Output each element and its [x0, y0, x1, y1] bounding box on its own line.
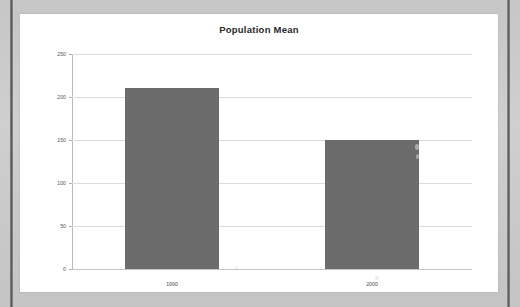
- bars-group: 19902000: [72, 54, 472, 269]
- scan-speck: [375, 276, 379, 280]
- y-axis-tick-mark: [69, 269, 72, 270]
- y-axis-tick-label: 100: [57, 180, 66, 186]
- scan-speck: [415, 144, 419, 150]
- bar-2000: 2000: [325, 140, 419, 269]
- scan-speck: [235, 266, 238, 269]
- y-axis-tick-label: 0: [63, 266, 66, 272]
- x-axis-tick-label: 2000: [366, 281, 378, 287]
- y-axis-tick-label: 250: [57, 51, 66, 57]
- screenshot-root: Population Mean 050100150200250 19902000: [0, 0, 520, 307]
- y-axis-tick-label: 50: [60, 223, 66, 229]
- x-axis-tick-label: 1990: [166, 281, 178, 287]
- page-right-edge: [507, 0, 510, 307]
- chart-title: Population Mean: [20, 24, 498, 35]
- scan-speck: [416, 154, 419, 159]
- plot-area: 050100150200250 19902000: [72, 54, 472, 269]
- bar-1990: 1990: [125, 88, 219, 269]
- y-axis-tick-label: 150: [57, 137, 66, 143]
- page-left-edge: [10, 0, 13, 307]
- y-axis-tick-label: 200: [57, 94, 66, 100]
- gridline: [72, 269, 472, 270]
- chart-card: Population Mean 050100150200250 19902000: [20, 14, 498, 292]
